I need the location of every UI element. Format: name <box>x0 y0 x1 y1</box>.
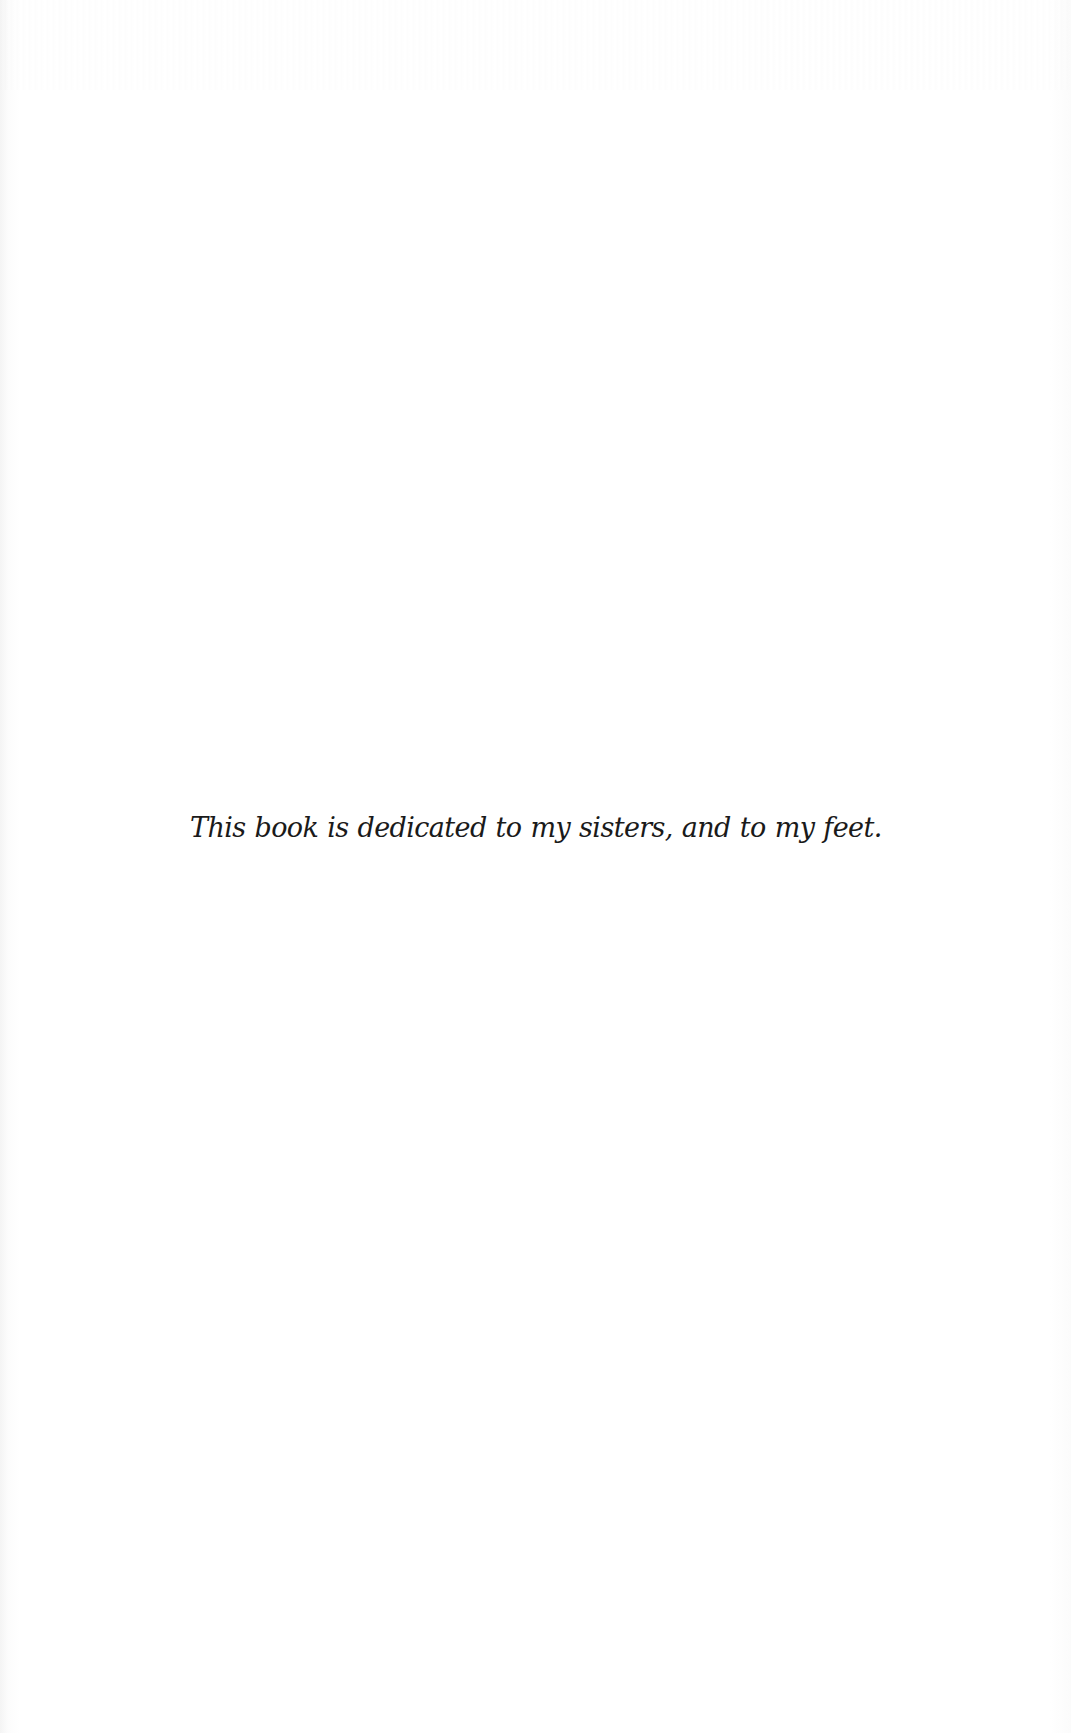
book-page: This book is dedicated to my sisters, an… <box>0 0 1071 1733</box>
paper-bleed-through <box>0 0 1071 90</box>
dedication-text: This book is dedicated to my sisters, an… <box>190 808 814 848</box>
